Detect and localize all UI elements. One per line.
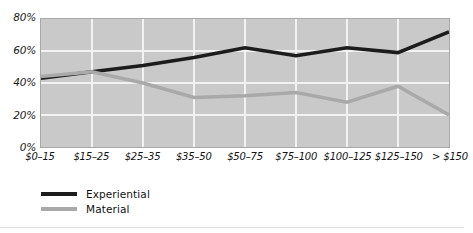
legend-label: Material bbox=[86, 203, 129, 215]
y-tick-label: 40% bbox=[2, 77, 36, 88]
x-tick-label: $50–75 bbox=[219, 151, 271, 163]
series-line bbox=[41, 72, 449, 115]
x-tick-label: $0–15 bbox=[14, 151, 66, 163]
y-tick-label: 20% bbox=[2, 110, 36, 121]
chart-legend: ExperientialMaterial bbox=[41, 186, 150, 216]
x-tick-label: $15–25 bbox=[65, 151, 117, 163]
series-line bbox=[41, 32, 449, 78]
bottom-divider bbox=[0, 227, 464, 228]
x-tick-label: $125–150 bbox=[373, 151, 425, 163]
y-tick-label: 60% bbox=[2, 45, 36, 56]
x-tick-label: $100–125 bbox=[322, 151, 374, 163]
legend-item: Experiential bbox=[41, 186, 150, 201]
data-lines bbox=[41, 19, 449, 147]
legend-label: Experiential bbox=[86, 188, 150, 200]
legend-swatch bbox=[41, 207, 77, 211]
legend-item: Material bbox=[41, 201, 150, 216]
x-tick-label: > $150 bbox=[424, 151, 473, 163]
x-tick-label: $25–35 bbox=[117, 151, 169, 163]
legend-swatch bbox=[41, 192, 77, 196]
x-axis: $0–15$15–25$25–35$35–50$50–75$75–100$100… bbox=[40, 151, 450, 183]
x-tick-label: $75–100 bbox=[270, 151, 322, 163]
y-tick-label: 80% bbox=[2, 12, 36, 23]
y-axis: 0%20%40%60%80% bbox=[0, 0, 36, 233]
x-tick-label: $35–50 bbox=[168, 151, 220, 163]
plot-area bbox=[40, 18, 450, 148]
